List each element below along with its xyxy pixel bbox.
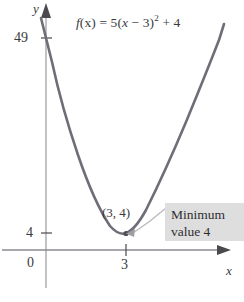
function-equation-label: f(x) = 5(x − 3)2 + 4 (76, 14, 180, 29)
callout-line-1: Minimum (171, 206, 244, 223)
y-axis-label: y (33, 2, 39, 15)
y-tick-label-49: 49 (14, 31, 28, 45)
parabola-curve (41, 18, 224, 234)
origin-label: 0 (27, 256, 34, 270)
parabola-figure: y x 49 4 0 3 f(x) = 5(x − 3)2 + 4 (3, 4)… (0, 0, 244, 302)
x-tick-label-3: 3 (121, 258, 128, 272)
x-axis-arrowhead (217, 245, 231, 255)
equation-plus-four: + 4 (159, 15, 181, 30)
equation-paren-x: (x) (80, 15, 96, 30)
y-axis-arrowhead (41, 3, 51, 18)
callout-line-2: value 4 (171, 223, 244, 240)
vertex-point-label: (3, 4) (102, 206, 130, 219)
y-tick-label-4: 4 (26, 226, 33, 240)
x-axis-label: x (226, 264, 232, 277)
equation-minus-three: − 3) (128, 15, 154, 30)
equation-equals: = 5( (96, 15, 122, 30)
callout-leader-line (133, 208, 166, 233)
minimum-value-callout: Minimum value 4 (165, 203, 244, 241)
